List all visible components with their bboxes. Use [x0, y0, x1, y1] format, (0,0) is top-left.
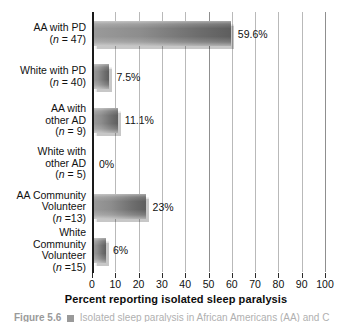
x-axis-tick-label: 100	[316, 278, 334, 290]
bar-value-label: 0%	[99, 158, 114, 169]
category-label: White with PD(n = 40)	[0, 65, 86, 88]
bar-value-label: 11.1%	[125, 115, 154, 126]
bar-value-label: 7.5%	[116, 72, 140, 83]
y-axis-line	[92, 12, 94, 273]
gridline-100	[325, 12, 326, 272]
x-axis-tick-label: 90	[296, 278, 308, 290]
bar-fill	[92, 21, 231, 46]
category-label: White withother AD(n = 5)	[0, 146, 86, 181]
category-label-line: White	[0, 227, 86, 239]
x-axis-tick-label: 50	[203, 278, 215, 290]
category-sample-size: (n =15)	[0, 262, 86, 274]
figure-number: Figure 5.6	[14, 312, 61, 322]
bar-fill	[92, 108, 118, 133]
bar-value-label: 6%	[113, 245, 128, 256]
category-sample-size: (n = 40)	[0, 77, 86, 89]
category-sample-size: (n = 5)	[0, 169, 86, 181]
category-label: WhiteCommunityVolunteer(n =15)	[0, 227, 86, 273]
figure-caption: Figure 5.6 Isolated sleep paralysis in A…	[14, 312, 346, 322]
x-axis-tick-label: 20	[133, 278, 145, 290]
bar-value-label: 23%	[153, 202, 174, 213]
figure-bar-chart: 59.6%7.5%11.1%0%23%6% AA with PD(n = 47)…	[0, 0, 352, 322]
x-axis-tick-label: 30	[156, 278, 168, 290]
bar	[92, 238, 106, 263]
bar-row: 7.5%	[92, 55, 325, 98]
bar-row: 6%	[92, 229, 325, 272]
caption-marker-icon	[67, 315, 74, 322]
category-label: AA withother AD(n = 9)	[0, 103, 86, 138]
bar-fill	[92, 194, 146, 219]
bar	[92, 194, 146, 219]
plot-area: 59.6%7.5%11.1%0%23%6%	[92, 12, 325, 272]
x-axis-tick-label: 60	[226, 278, 238, 290]
x-axis-tick-label: 80	[273, 278, 285, 290]
category-sample-size: (n =13)	[0, 213, 86, 225]
x-axis-tick-label: 70	[249, 278, 261, 290]
bar-row: 11.1%	[92, 99, 325, 142]
bar	[92, 64, 109, 89]
x-axis-tick-label: 40	[179, 278, 191, 290]
bar-row: 0%	[92, 142, 325, 185]
category-label-line: AA with PD	[0, 22, 86, 34]
bar-fill	[92, 238, 106, 263]
bar-row: 59.6%	[92, 12, 325, 55]
category-label: AA CommunityVolunteer(n =13)	[0, 190, 86, 225]
category-sample-size: (n = 47)	[0, 34, 86, 46]
bar	[92, 108, 118, 133]
x-axis-tick-label: 0	[89, 278, 95, 290]
bar-row: 23%	[92, 185, 325, 228]
bar	[92, 21, 231, 46]
bar-value-label: 59.6%	[238, 28, 268, 39]
category-label-line: AA with	[0, 103, 86, 115]
category-sample-size: (n = 9)	[0, 126, 86, 138]
x-axis-title: Percent reporting isolated sleep paralys…	[0, 293, 352, 305]
x-axis-tick-label: 10	[109, 278, 121, 290]
category-label: AA with PD(n = 47)	[0, 22, 86, 45]
figure-caption-text: Isolated sleep paralysis in African Amer…	[80, 312, 330, 322]
bar-fill	[92, 64, 109, 89]
